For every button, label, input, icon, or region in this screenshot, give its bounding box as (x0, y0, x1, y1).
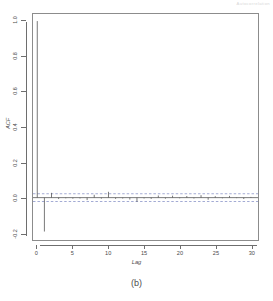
x-tick-mark (216, 245, 217, 249)
y-tick-mark (21, 234, 26, 235)
x-tick-mark (36, 245, 37, 249)
x-tick-label: 30 (243, 250, 261, 257)
x-tick-label: 0 (27, 250, 45, 257)
y-tick-label: 0.2 (12, 156, 18, 169)
x-tick-mark (180, 245, 181, 249)
plot-area (33, 14, 258, 240)
plot-frame (32, 13, 259, 241)
y-tick-mark (21, 198, 26, 199)
y-axis-title: ACF (5, 109, 12, 139)
y-tick-label: -0.2 (12, 227, 18, 240)
page-running-head: Autocorrelation (150, 0, 270, 7)
x-tick-label: 25 (207, 250, 225, 257)
y-tick-label: 0.6 (12, 85, 18, 98)
y-tick-label: 0.0 (12, 192, 18, 205)
y-axis-line (26, 22, 27, 236)
y-tick-mark (21, 163, 26, 164)
y-tick-label: 0.4 (12, 121, 18, 134)
x-tick-label: 5 (63, 250, 81, 257)
acf-stem-plot (33, 14, 258, 240)
x-tick-mark (144, 245, 145, 249)
y-tick-mark (21, 91, 26, 92)
y-tick-mark (21, 56, 26, 57)
y-tick-label: 1.0 (12, 14, 18, 27)
x-tick-label: 15 (135, 250, 153, 257)
x-tick-mark (72, 245, 73, 249)
figure-caption: (b) (0, 277, 273, 289)
x-tick-label: 20 (171, 250, 189, 257)
x-tick-label: 10 (99, 250, 117, 257)
y-tick-mark (21, 127, 26, 128)
x-tick-mark (252, 245, 253, 249)
acf-figure-panel: Autocorrelation 1.00.80.60.40.20.0-0.2 0… (0, 0, 273, 301)
x-axis-title: Lag (0, 258, 273, 266)
y-tick-mark (21, 20, 26, 21)
y-tick-label: 0.8 (12, 49, 18, 62)
x-tick-mark (108, 245, 109, 249)
